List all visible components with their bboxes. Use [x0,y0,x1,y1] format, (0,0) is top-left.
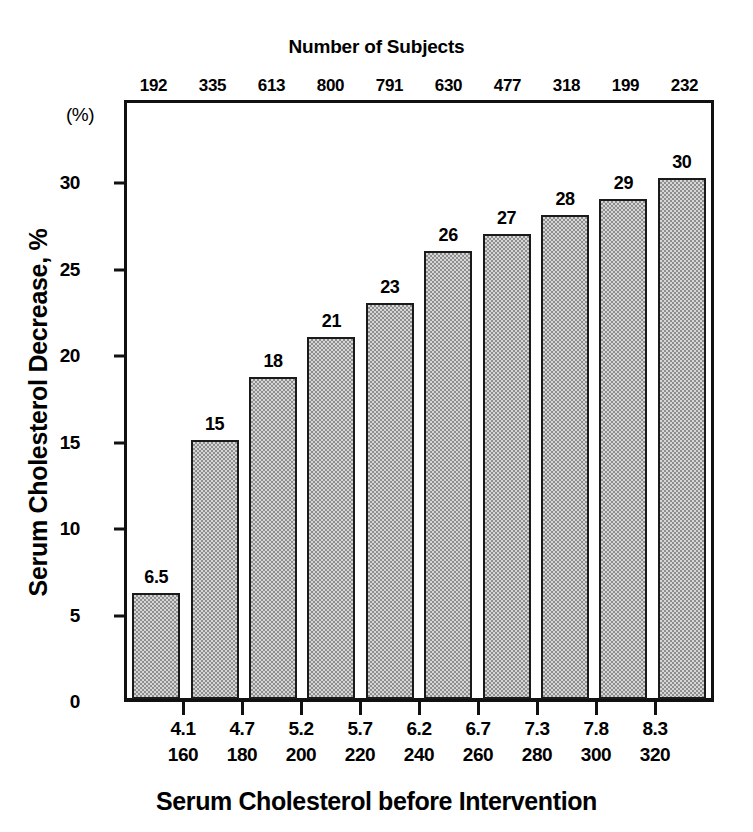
x-tick-mark [536,702,539,715]
bar-value-label: 29 [594,173,652,194]
bar-value-label: 21 [302,311,360,332]
x-tick-mark [595,702,598,715]
subject-count: 318 [537,74,596,98]
x-tick-mark [182,702,185,715]
subject-count: 335 [183,74,242,98]
x-tick-mark [654,702,657,715]
x-tick-mark [477,702,480,715]
y-tick-mark [114,268,124,271]
subject-counts-row: 192335613800791630477318199232 [124,74,714,98]
bar-slot: 27 [477,103,535,699]
bar-value-label: 18 [244,351,302,372]
subject-count: 199 [596,74,655,98]
bar-slot: 21 [302,103,360,699]
x-tick-mark [241,702,244,715]
bar-slot: 6.5 [127,103,185,699]
bar-slot: 28 [536,103,594,699]
subject-count: 800 [301,74,360,98]
y-tick-mark [114,355,124,358]
bar[interactable] [483,234,531,699]
bar-value-label: 26 [419,225,477,246]
x-tick-mark [418,702,421,715]
bar[interactable] [307,337,355,699]
bar-value-label: 15 [185,414,243,435]
bar-slot: 15 [185,103,243,699]
y-tick-mark [114,528,124,531]
subject-count: 613 [242,74,301,98]
bar[interactable] [599,199,647,699]
percent-unit-note: (%) [66,104,94,126]
bar-slot: 29 [594,103,652,699]
x-axis-title: Serum Cholesterol before Intervention [0,787,753,816]
x-tick-label-mmol: 8.3 [610,716,700,742]
subject-count: 630 [419,74,478,98]
bar-slot: 26 [419,103,477,699]
bar-value-label: 27 [477,208,535,229]
x-tick-label-group: 8.3320 [610,716,700,768]
y-tick-mark [114,441,124,444]
y-tick-label: 0 [20,691,80,713]
bars-layer: 6.5151821232627282930 [127,103,711,699]
x-tick-mark [359,702,362,715]
bar-slot: 18 [244,103,302,699]
x-axis-labels: 4.11604.71805.22005.72206.22406.72607.32… [124,716,714,778]
bar-value-label: 23 [361,277,419,298]
bar[interactable] [191,440,239,699]
bar-value-label: 6.5 [127,567,185,588]
bar[interactable] [132,593,180,699]
bar[interactable] [658,178,706,699]
y-axis-title: Serum Cholesterol Decrease, % [24,133,53,693]
bar[interactable] [249,377,297,699]
bar[interactable] [541,215,589,699]
number-of-subjects-title: Number of Subjects [0,36,753,58]
y-tick-mark [114,182,124,185]
subject-count: 791 [360,74,419,98]
y-tick-mark [114,614,124,617]
bar[interactable] [366,303,414,699]
subject-count: 477 [478,74,537,98]
chart-figure: Number of Subjects 192335613800791630477… [0,0,753,832]
bar-slot: 30 [653,103,711,699]
bar[interactable] [424,251,472,699]
bar-slot: 23 [361,103,419,699]
x-tick-label-mg: 320 [610,742,700,768]
subject-count: 192 [124,74,183,98]
subject-count: 232 [655,74,714,98]
bar-value-label: 28 [536,189,594,210]
x-tick-mark [300,702,303,715]
bar-value-label: 30 [653,152,711,173]
